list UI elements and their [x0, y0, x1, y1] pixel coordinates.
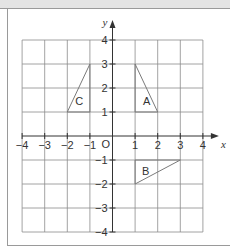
x-tick-label: −1: [84, 139, 97, 151]
coordinate-grid: xyO −4−3−2−112344321−1−2−3−4 ABC: [0, 0, 230, 248]
y-axis-arrow-icon: [110, 20, 116, 28]
axes: xyO: [22, 16, 226, 232]
y-tick-label: 3: [101, 58, 107, 70]
triangle-label-a: A: [143, 95, 151, 107]
x-tick-label: 3: [177, 139, 183, 151]
y-tick-label: 2: [101, 82, 107, 94]
triangle-label-b: B: [142, 165, 149, 177]
x-axis-label: x: [220, 138, 226, 150]
y-axis-label: y: [102, 16, 108, 28]
x-tick-label: 1: [132, 139, 138, 151]
y-tick-label: −2: [95, 178, 108, 190]
x-tick-label: 2: [155, 139, 161, 151]
x-tick-label: −4: [16, 139, 29, 151]
x-tick-label: −2: [61, 139, 74, 151]
x-axis-arrow-icon: [211, 133, 219, 139]
x-tick-label: −3: [38, 139, 51, 151]
y-tick-label: 4: [101, 34, 107, 46]
y-tick-label: −3: [95, 202, 108, 214]
triangle-label-c: C: [75, 95, 83, 107]
shapes: ABC: [67, 64, 180, 184]
y-tick-label: −4: [95, 226, 108, 238]
y-tick-label: −1: [95, 154, 108, 166]
y-tick-label: 1: [101, 106, 107, 118]
origin-label: O: [102, 138, 111, 150]
x-tick-label: 4: [200, 139, 206, 151]
